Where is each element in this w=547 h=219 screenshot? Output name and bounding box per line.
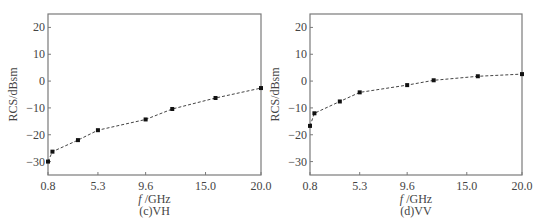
y-tick-label: −10 [288,101,307,115]
data-point-marker [76,138,80,142]
chart-vh-svg: 20100−10−20−300.85.39.615.020.0f /GHz(c)… [0,0,273,219]
y-tick-label: −30 [26,155,45,169]
chart-vh: 20100−10−20−300.85.39.615.020.0f /GHz(c)… [0,0,273,219]
x-tick-label: 9.6 [138,179,153,193]
y-tick-label: 20 [33,20,45,34]
y-tick-label: 10 [33,47,45,61]
data-point-marker [476,74,480,78]
y-tick-label: 0 [39,74,45,88]
x-tick-label: 5.3 [352,179,367,193]
data-point-marker [144,117,148,121]
y-axis-label: RCS/dBsm [268,67,282,122]
x-tick-label: 20.0 [512,179,533,193]
y-tick-label: 20 [295,20,307,34]
data-point-marker [96,128,100,132]
data-point-marker [432,78,436,82]
y-tick-label: −20 [26,128,45,142]
chart-vv-svg: 20100−10−20−300.85.39.615.020.0f /GHz(d)… [262,0,547,219]
data-point-marker [308,124,312,128]
data-point-marker [46,160,50,164]
x-tick-label: 5.3 [90,179,105,193]
chart-caption: (c)VH [139,204,170,218]
data-point-marker [338,99,342,103]
y-axis-label: RCS/dBsm [6,67,20,122]
x-tick-label: 9.6 [400,179,415,193]
data-point-marker [214,96,218,100]
y-tick-label: −10 [26,101,45,115]
x-tick-label: 0.8 [303,179,318,193]
y-tick-label: −20 [288,128,307,142]
chart-caption: (d)VV [400,204,432,218]
data-point-marker [170,107,174,111]
data-point-marker [50,150,54,154]
data-point-marker [312,111,316,115]
plot-frame [48,14,261,175]
y-tick-label: 0 [301,74,307,88]
data-point-marker [358,90,362,94]
x-tick-label: 15.0 [195,179,216,193]
y-tick-label: −30 [288,155,307,169]
x-tick-label: 15.0 [456,179,477,193]
x-tick-label: 0.8 [41,179,56,193]
data-point-marker [520,72,524,76]
chart-vv: 20100−10−20−300.85.39.615.020.0f /GHz(d)… [262,0,535,219]
y-tick-label: 10 [295,47,307,61]
data-line [48,88,261,162]
data-point-marker [405,83,409,87]
plot-frame [310,14,522,175]
